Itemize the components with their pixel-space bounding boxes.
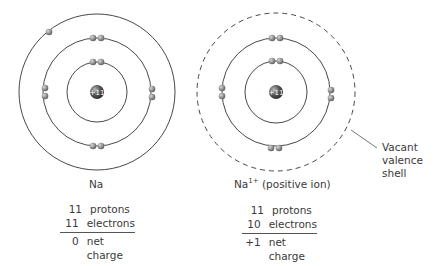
svg-text:+11: +11: [269, 89, 284, 97]
ion-label: Na1+ (positive ion): [234, 177, 331, 190]
vacant-shell-label: Vacant valence shell: [382, 141, 423, 180]
ion-charge-table: 11protons 10electrons +1net charge: [242, 203, 317, 249]
sodium-atom: +11: [19, 14, 175, 170]
svg-text:+11: +11: [90, 89, 105, 97]
leader-line: [351, 130, 377, 148]
atom-label: Na: [89, 178, 103, 190]
atom-charge-table: 11protons 11electrons 0net charge: [60, 202, 135, 248]
sodium-ion: +11: [197, 13, 355, 171]
